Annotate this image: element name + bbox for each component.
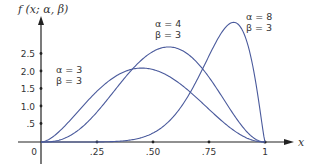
x-tick-label: .75: [202, 147, 216, 157]
series-label-a8b3-beta: β = 3: [246, 22, 272, 33]
x-tick-label: 0: [31, 147, 37, 157]
curve-alpha4-beta3: [41, 47, 265, 142]
series-label-a3b3-beta: β = 3: [56, 75, 82, 86]
x-ticks: 0 .25 .50 .75 1: [31, 140, 268, 157]
y-tick-label: .5: [26, 119, 35, 129]
x-tick-label: 1: [262, 147, 268, 157]
beta-distribution-chart: .5 1.0 1.5 2.0 2.5 0 .25 .50 .75 1 f (x;…: [0, 0, 312, 168]
y-tick-label: 1.0: [21, 102, 36, 112]
x-tick-label: .25: [90, 147, 104, 157]
x-axis-arrow-icon: [284, 139, 294, 145]
series-labels: α = 3 β = 3 α = 4 β = 3 α = 8 β = 3: [56, 11, 272, 86]
y-tick-label: 2.5: [21, 49, 35, 59]
series-label-a8b3-alpha: α = 8: [246, 11, 272, 22]
x-tick-label: .50: [146, 147, 161, 157]
x-axis-label: x: [298, 136, 305, 149]
y-tick-label: 2.0: [21, 67, 36, 77]
y-axis-arrow-icon: [38, 16, 44, 25]
y-ticks: .5 1.0 1.5 2.0 2.5: [21, 49, 43, 129]
series-label-a4b3-beta: β = 3: [155, 29, 181, 40]
series-label-a3b3-alpha: α = 3: [56, 64, 82, 75]
y-axis-label: f (x; α, β): [17, 3, 68, 16]
series-label-a4b3-alpha: α = 4: [155, 18, 181, 29]
y-tick-label: 1.5: [21, 84, 35, 94]
